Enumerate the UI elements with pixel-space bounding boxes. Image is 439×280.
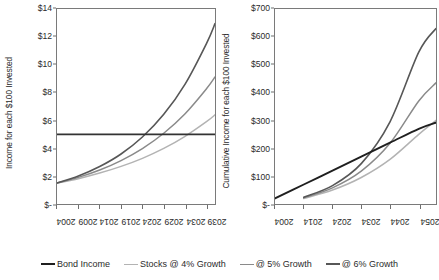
plot-svg-left xyxy=(57,9,215,204)
series-line xyxy=(304,120,436,198)
legend-swatch-line-icon xyxy=(41,263,55,265)
y-tick-label: $200 xyxy=(251,144,270,154)
series-line xyxy=(57,24,215,183)
series-line xyxy=(57,115,215,183)
series-line xyxy=(57,77,215,183)
legend-label: Bond Income xyxy=(57,259,110,269)
plot-wrap-left: $-$2$4$6$8$10$12$14 20042009201420192024… xyxy=(18,0,219,250)
legend-item[interactable]: Stocks @ 4% Growth xyxy=(124,259,226,269)
series-line xyxy=(304,83,436,198)
x-axis-right: 200420142024203420442054 xyxy=(274,205,437,250)
y-tick-label: $600 xyxy=(251,31,270,41)
chart-panel-cumulative: Cumulative Income for each $100 Invested… xyxy=(219,0,439,250)
legend-item[interactable]: Bond Income xyxy=(41,259,110,269)
x-tick-label: 2004 xyxy=(274,202,284,221)
y-axis-labels-left: $-$2$4$6$8$10$12$14 xyxy=(18,0,56,205)
x-tick-label: 2034 xyxy=(361,202,371,221)
y-tick-label: $2 xyxy=(42,172,52,182)
x-tick-label: 2024 xyxy=(332,202,342,221)
y-axis-labels-right: $-$100$200$300$400$500$600$700 xyxy=(236,0,274,205)
y-tick-label: $- xyxy=(44,200,52,210)
x-tick-label: 2034 xyxy=(186,202,196,221)
x-tick-label: 2029 xyxy=(164,202,174,221)
x-tick-label: 2014 xyxy=(99,202,109,221)
y-tick-label: $700 xyxy=(251,3,270,13)
legend-label: @ 5% Growth xyxy=(256,259,312,269)
y-axis-title-left: Income for each $100 Invested xyxy=(2,4,16,222)
legend-label: @ 6% Growth xyxy=(342,259,398,269)
chart-legend: Bond IncomeStocks @ 4% Growth@ 5% Growth… xyxy=(0,252,439,276)
legend-item[interactable]: @ 6% Growth xyxy=(326,259,398,269)
x-tick-label: 2039 xyxy=(207,202,217,221)
y-tick-label: $8 xyxy=(42,87,52,97)
x-tick-label: 2019 xyxy=(121,202,131,221)
chart-panels: Income for each $100 Invested $-$2$4$6$8… xyxy=(0,0,439,250)
y-tick-label: $400 xyxy=(251,87,270,97)
y-tick-label: $500 xyxy=(251,59,270,69)
plot-wrap-right: $-$100$200$300$400$500$600$700 200420142… xyxy=(236,0,439,250)
plot-svg-right xyxy=(275,9,436,204)
y-tick-label: $4 xyxy=(42,144,52,154)
y-tick-label: $100 xyxy=(251,172,270,182)
y-axis-title-right: Cumulative Income for each $100 Invested xyxy=(219,2,233,220)
x-tick-label: 2024 xyxy=(142,202,152,221)
y-tick-label: $12 xyxy=(38,31,52,41)
legend-label: Stocks @ 4% Growth xyxy=(140,259,226,269)
plot-area-left xyxy=(56,8,216,205)
plot-area-right xyxy=(274,8,437,205)
legend-swatch-line-icon xyxy=(240,264,254,265)
series-line xyxy=(275,123,436,199)
chart-panel-income: Income for each $100 Invested $-$2$4$6$8… xyxy=(0,0,219,250)
y-tick-label: $14 xyxy=(38,3,52,13)
x-axis-left: 20042009201420192024202920342039 xyxy=(56,205,216,250)
legend-swatch-line-icon xyxy=(124,264,138,265)
figure: Income for each $100 Invested $-$2$4$6$8… xyxy=(0,0,439,280)
x-tick-label: 2009 xyxy=(78,202,88,221)
x-tick-label: 2044 xyxy=(390,202,400,221)
x-tick-label: 2014 xyxy=(303,202,313,221)
legend-item[interactable]: @ 5% Growth xyxy=(240,259,312,269)
x-tick-label: 2004 xyxy=(56,202,66,221)
y-tick-label: $300 xyxy=(251,116,270,126)
y-tick-label: $6 xyxy=(42,116,52,126)
y-tick-label: $10 xyxy=(38,59,52,69)
y-tick-label: $- xyxy=(262,200,270,210)
legend-swatch-line-icon xyxy=(326,263,340,265)
x-tick-label: 2054 xyxy=(420,202,430,221)
